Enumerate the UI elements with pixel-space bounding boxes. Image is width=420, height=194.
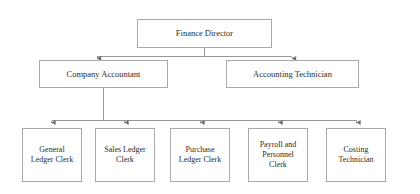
node-label-general-ledger-clerk: General Ledger Clerk bbox=[28, 145, 76, 165]
node-label-purchase-ledger-clerk: Purchase Ledger Clerk bbox=[176, 145, 224, 165]
node-label-accounting-technician: Accounting Technician bbox=[250, 69, 335, 79]
node-company-accountant: Company Accountant bbox=[39, 60, 168, 88]
org-chart: Finance Director Company Accountant Acco… bbox=[0, 0, 420, 194]
node-finance-director: Finance Director bbox=[137, 19, 272, 48]
node-label-sales-ledger-clerk: Sales Ledger Clerk bbox=[101, 145, 149, 165]
node-accounting-technician: Accounting Technician bbox=[226, 60, 359, 88]
node-costing-technician: Costing Technician bbox=[326, 128, 386, 182]
node-label-payroll-personnel-clerk: Payroll and Personnel Clerk bbox=[257, 140, 300, 169]
node-payroll-personnel-clerk: Payroll and Personnel Clerk bbox=[248, 128, 308, 182]
node-sales-ledger-clerk: Sales Ledger Clerk bbox=[95, 128, 155, 182]
node-purchase-ledger-clerk: Purchase Ledger Clerk bbox=[170, 128, 230, 182]
node-general-ledger-clerk: General Ledger Clerk bbox=[22, 128, 82, 182]
node-label-company-accountant: Company Accountant bbox=[64, 69, 144, 79]
node-label-finance-director: Finance Director bbox=[173, 28, 236, 38]
node-label-costing-technician: Costing Technician bbox=[336, 145, 377, 165]
